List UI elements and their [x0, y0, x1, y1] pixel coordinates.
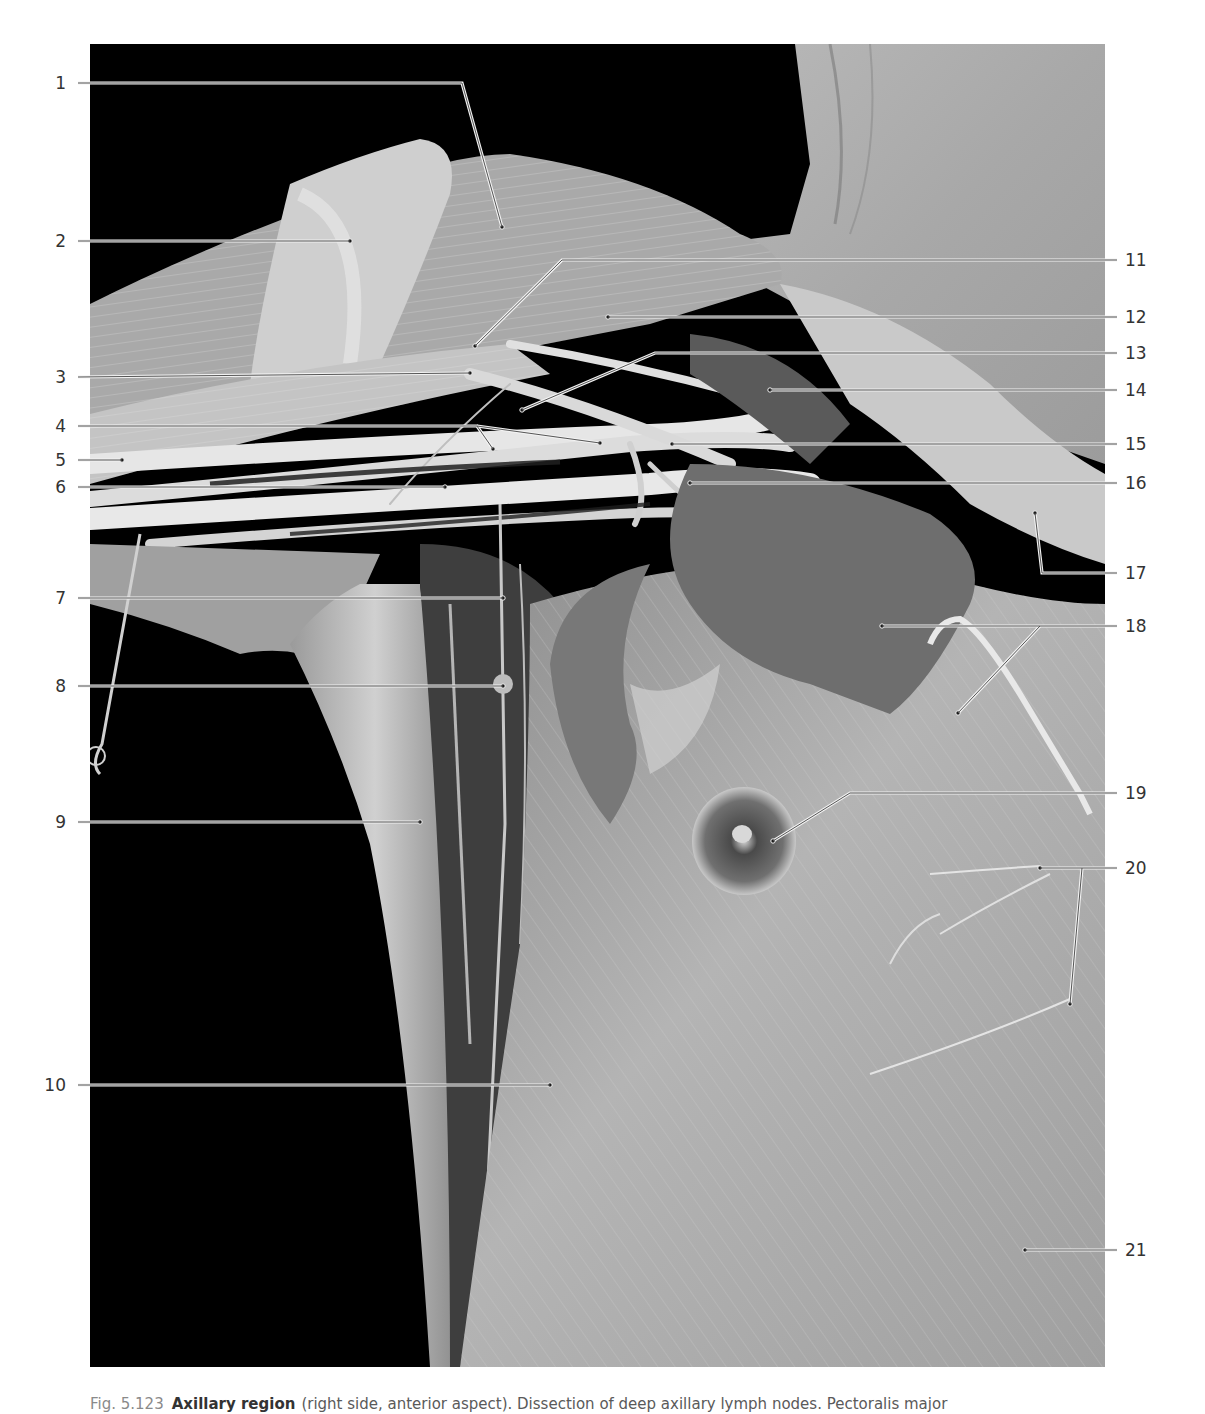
label-20: 20: [1125, 860, 1165, 877]
label-6: 6: [26, 479, 66, 496]
label-15: 15: [1125, 436, 1165, 453]
label-7: 7: [26, 590, 66, 607]
label-10: 10: [26, 1077, 66, 1094]
label-11: 11: [1125, 252, 1165, 269]
label-19: 19: [1125, 785, 1165, 802]
label-9: 9: [26, 814, 66, 831]
label-18: 18: [1125, 618, 1165, 635]
label-13: 13: [1125, 345, 1165, 362]
label-12: 12: [1125, 309, 1165, 326]
dissection-photo-rendering: [90, 44, 1105, 1367]
figure-title: Axillary region: [172, 1395, 296, 1413]
label-4: 4: [26, 418, 66, 435]
figure-caption: Fig. 5.123Axillary region(right side, an…: [90, 1394, 1190, 1414]
dissection-photo: [90, 44, 1105, 1367]
label-16: 16: [1125, 475, 1165, 492]
label-1: 1: [26, 75, 66, 92]
figure-caption-text: (right side, anterior aspect). Dissectio…: [301, 1395, 947, 1413]
label-14: 14: [1125, 382, 1165, 399]
label-3: 3: [26, 369, 66, 386]
figure-number: Fig. 5.123: [90, 1395, 164, 1413]
label-5: 5: [26, 452, 66, 469]
label-2: 2: [26, 233, 66, 250]
label-17: 17: [1125, 565, 1165, 582]
label-8: 8: [26, 678, 66, 695]
label-21: 21: [1125, 1242, 1165, 1259]
